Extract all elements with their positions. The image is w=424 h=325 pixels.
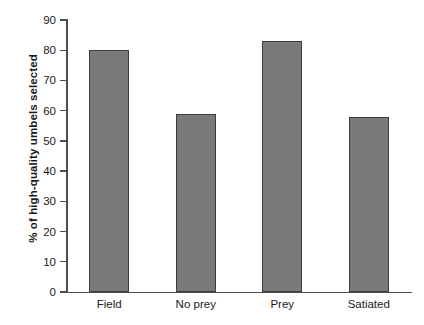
x-category-label-satiated: Satiated	[348, 298, 390, 310]
y-tick-label: 10	[16, 256, 56, 268]
y-tick-label: 30	[16, 195, 56, 207]
x-category-label-field: Field	[97, 298, 122, 310]
y-tick-label: 0	[16, 286, 56, 298]
y-tick-label: 20	[16, 226, 56, 238]
x-category-label-no-prey: No prey	[176, 298, 216, 310]
y-tick-label: 40	[16, 165, 56, 177]
y-tick-label: 70	[16, 74, 56, 86]
bar-no-prey[interactable]	[176, 114, 216, 292]
bar-satiated[interactable]	[349, 117, 389, 292]
bars-layer	[66, 20, 412, 292]
y-tick-label: 60	[16, 105, 56, 117]
bar-prey[interactable]	[262, 41, 302, 292]
y-tick-label: 50	[16, 135, 56, 147]
y-tick-label: 90	[16, 14, 56, 26]
plot-area	[66, 20, 412, 292]
bar-field[interactable]	[89, 50, 129, 292]
y-tick-label: 80	[16, 44, 56, 56]
bar-chart-figure: % of high-quality umbels selected 010203…	[0, 0, 424, 325]
x-category-label-prey: Prey	[270, 298, 294, 310]
